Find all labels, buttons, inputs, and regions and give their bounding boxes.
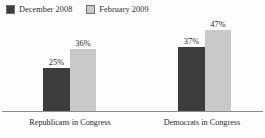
bar-value-label: 47% [205, 20, 231, 29]
bar-rect [70, 49, 96, 111]
bar-rect [43, 68, 70, 111]
legend-swatch-february-2009 [86, 5, 95, 14]
bar-democrats-december-2008: 37% [178, 26, 205, 111]
bar-group-republicans: 25% 36% [43, 26, 96, 111]
category-label-republicans: Republicans in Congress [8, 117, 132, 128]
bar-rect [205, 30, 231, 111]
legend-item-february-2009: February 2009 [86, 5, 148, 14]
chart-legend: December 2008 February 2009 [6, 3, 149, 16]
category-label-democrats: Democrats in Congress [140, 117, 264, 128]
legend-label-december-2008: December 2008 [19, 5, 72, 14]
x-axis-baseline [2, 111, 263, 112]
bar-republicans-december-2008: 25% [43, 26, 70, 111]
bar-value-label: 37% [178, 37, 205, 46]
bar-democrats-february-2009: 47% [205, 26, 231, 111]
legend-item-december-2008: December 2008 [6, 5, 72, 14]
bar-chart: December 2008 February 2009 25% 36% 37% [0, 0, 265, 138]
plot-area: 25% 36% 37% 47% [0, 26, 265, 112]
legend-label-february-2009: February 2009 [99, 5, 148, 14]
bar-value-label: 25% [43, 58, 70, 67]
bar-rect [178, 47, 205, 111]
bar-group-democrats: 37% 47% [178, 26, 232, 111]
bar-republicans-february-2009: 36% [70, 26, 96, 111]
x-axis-tick-labels: Republicans in Congress Democrats in Con… [0, 117, 265, 131]
legend-swatch-december-2008 [6, 5, 15, 14]
bar-value-label: 36% [70, 39, 96, 48]
